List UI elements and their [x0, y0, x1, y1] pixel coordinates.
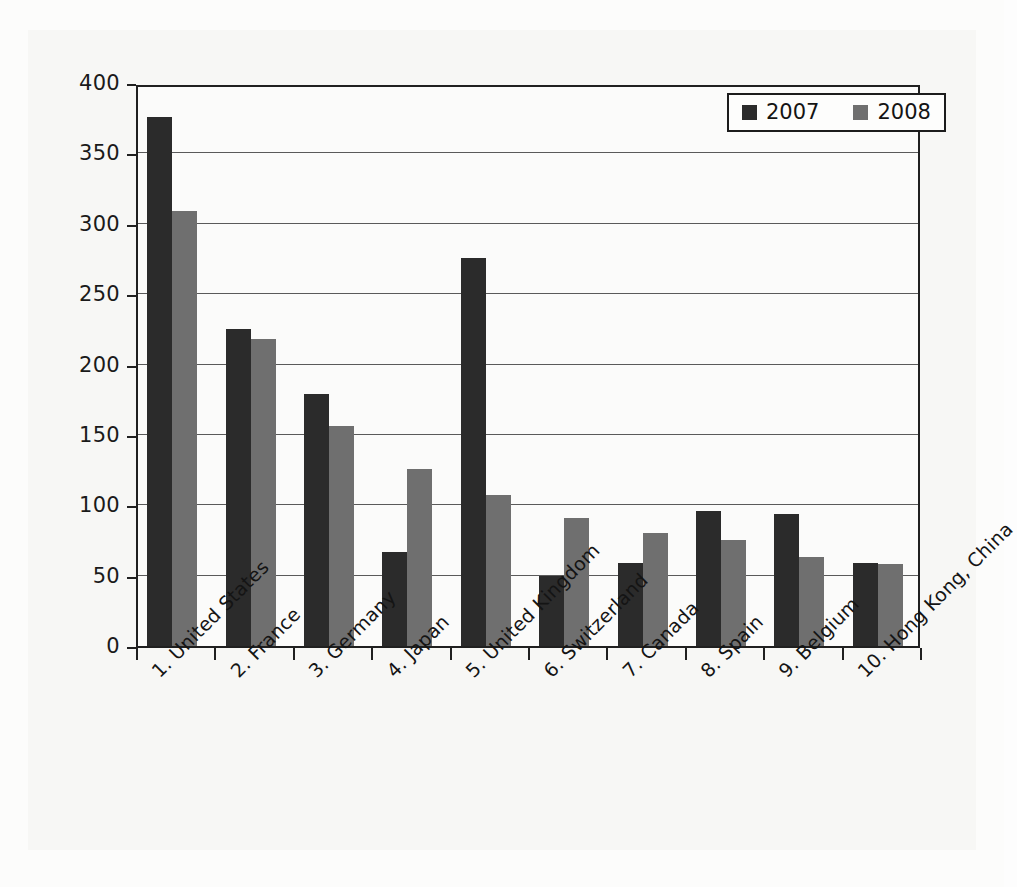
y-axis-tick-label: 250 [79, 282, 120, 306]
y-axis-tick-mark [127, 366, 136, 368]
bar-group [844, 87, 922, 646]
legend-swatch-icon [742, 105, 757, 120]
y-axis-tick-label: 150 [79, 423, 120, 447]
bar-group [687, 87, 765, 646]
x-axis-tick-mark [293, 648, 295, 660]
x-axis-tick-mark [214, 648, 216, 660]
y-axis-tick-label: 350 [79, 141, 120, 165]
legend-entry: 2008 [853, 102, 930, 123]
bar-2007 [304, 394, 329, 646]
bar-group [452, 87, 530, 646]
y-axis-tick-label: 400 [79, 71, 120, 95]
y-axis-tick-label: 50 [93, 564, 120, 588]
bar-group [373, 87, 451, 646]
y-axis-tick-mark [127, 295, 136, 297]
x-axis-tick-mark [842, 648, 844, 660]
y-axis-tick-label: 0 [106, 634, 120, 658]
legend-entry: 2007 [742, 102, 819, 123]
bar-group [608, 87, 686, 646]
legend-label: 2008 [877, 102, 930, 123]
chart-legend: 20072008 [727, 93, 946, 132]
bar-group [138, 87, 216, 646]
y-axis-tick-mark [127, 154, 136, 156]
x-axis-tick-mark [371, 648, 373, 660]
x-axis-tick-mark [606, 648, 608, 660]
y-axis-tick-label: 100 [79, 493, 120, 517]
y-axis-tick-mark [127, 84, 136, 86]
bar-2007 [461, 258, 486, 646]
y-axis-tick-mark [127, 506, 136, 508]
y-axis-tick-mark [127, 225, 136, 227]
y-axis-tick-label: 300 [79, 212, 120, 236]
legend-label: 2007 [766, 102, 819, 123]
bar-2007 [696, 511, 721, 646]
bar-2008 [172, 211, 197, 646]
bar-2008 [251, 339, 276, 646]
x-axis-tick-mark [685, 648, 687, 660]
y-axis-tick-mark [127, 436, 136, 438]
x-axis-tick-mark [528, 648, 530, 660]
bar-2007 [147, 117, 172, 646]
x-axis-tick-mark [920, 648, 922, 660]
bar-2008 [329, 426, 354, 646]
x-axis-tick-mark [763, 648, 765, 660]
y-axis-tick-mark [127, 577, 136, 579]
y-axis-tick-label: 200 [79, 353, 120, 377]
bar-group [295, 87, 373, 646]
bar-group [765, 87, 843, 646]
bar-2007 [774, 514, 799, 646]
legend-swatch-icon [853, 105, 868, 120]
y-axis-tick-mark [127, 647, 136, 649]
x-axis-tick-mark [450, 648, 452, 660]
x-axis-tick-mark [136, 648, 138, 660]
